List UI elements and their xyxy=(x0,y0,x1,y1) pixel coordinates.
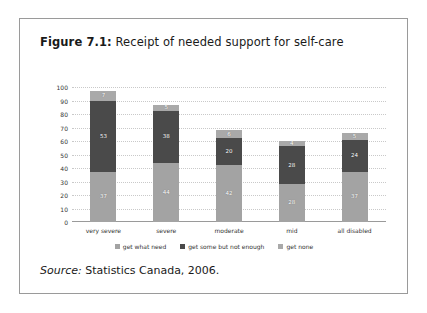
source-label: Source: xyxy=(40,264,82,277)
y-axis-tick-label: 10 xyxy=(60,205,68,212)
figure-caption-text: Receipt of needed support for self-care xyxy=(112,35,344,49)
gridline xyxy=(72,87,386,88)
bar-segment-value: 4 xyxy=(290,141,294,147)
y-axis-tick-label: 30 xyxy=(60,178,68,185)
x-axis-category-label: all disabled xyxy=(338,227,372,234)
bar-stack: 37537 xyxy=(90,91,116,222)
y-axis-tick-label: 50 xyxy=(60,151,68,158)
bar-segment-value: 37 xyxy=(100,194,107,200)
bar-segment: 37 xyxy=(342,172,368,222)
bar-segment: 28 xyxy=(279,146,305,184)
y-axis-tick-label: 40 xyxy=(60,165,68,172)
y-axis-tick-label: 0 xyxy=(64,219,68,226)
y-axis-tick-label: 20 xyxy=(60,192,68,199)
x-axis-category-label: mid xyxy=(286,227,297,234)
source-line: Source: Statistics Canada, 2006. xyxy=(40,264,219,277)
bar-segment-value: 42 xyxy=(226,191,233,197)
bar-segment: 5 xyxy=(342,133,368,140)
bar-segment: 28 xyxy=(279,184,305,222)
bar-segment-value: 28 xyxy=(288,163,295,169)
legend-swatch-icon xyxy=(180,244,185,249)
legend-label: get some but not enough xyxy=(188,243,264,250)
stacked-bar-chart: 0102030405060708090100375374438542206282… xyxy=(34,79,394,259)
bar-segment: 44 xyxy=(153,163,179,222)
bar-segment-value: 53 xyxy=(100,134,107,140)
bar-segment: 24 xyxy=(342,140,368,172)
bar-segment: 7 xyxy=(90,91,116,100)
bar-stack: 37245 xyxy=(342,133,368,222)
y-axis-tick-label: 90 xyxy=(60,97,68,104)
legend-label: get none xyxy=(286,243,313,250)
gridline xyxy=(72,114,386,115)
bar-stack: 44385 xyxy=(153,105,179,222)
bar-segment-value: 38 xyxy=(163,134,170,140)
gridline xyxy=(72,128,386,129)
bar-segment-value: 5 xyxy=(164,105,168,111)
x-axis-category-label: severe xyxy=(156,227,176,234)
bar-segment: 37 xyxy=(90,172,116,222)
x-axis-category-label: moderate xyxy=(214,227,243,234)
figure-panel: Figure 7.1: Receipt of needed support fo… xyxy=(19,18,408,294)
bar-segment-value: 24 xyxy=(351,153,358,159)
bar-segment-value: 37 xyxy=(351,194,358,200)
legend-item[interactable]: get what need xyxy=(115,243,166,250)
y-axis-tick-label: 70 xyxy=(60,124,68,131)
y-axis-tick-label: 100 xyxy=(57,84,68,91)
bar-segment-value: 5 xyxy=(353,134,357,140)
bar-segment-value: 44 xyxy=(163,190,170,196)
gridline xyxy=(72,101,386,102)
figure-caption: Figure 7.1: Receipt of needed support fo… xyxy=(40,35,344,49)
bar-segment-value: 28 xyxy=(288,200,295,206)
legend-swatch-icon xyxy=(115,244,120,249)
bar-segment-value: 6 xyxy=(227,132,231,138)
legend-item[interactable]: get none xyxy=(278,243,313,250)
legend-item[interactable]: get some but not enough xyxy=(180,243,264,250)
legend-swatch-icon xyxy=(278,244,283,249)
bar-segment: 4 xyxy=(279,141,305,146)
y-axis-tick-label: 80 xyxy=(60,111,68,118)
source-text: Statistics Canada, 2006. xyxy=(82,264,220,277)
bar-segment: 5 xyxy=(153,105,179,112)
bar-segment: 6 xyxy=(216,130,242,138)
bar-segment: 53 xyxy=(90,101,116,173)
bar-stack: 42206 xyxy=(216,130,242,222)
y-axis-tick-label: 60 xyxy=(60,138,68,145)
bar-segment-value: 20 xyxy=(226,149,233,155)
bar-segment: 38 xyxy=(153,111,179,162)
chart-legend: get what needget some but not enoughget … xyxy=(34,243,394,250)
bar-segment: 42 xyxy=(216,165,242,222)
plot-area: 0102030405060708090100375374438542206282… xyxy=(72,87,386,222)
figure-caption-label: Figure 7.1: xyxy=(40,35,112,49)
bar-segment-value: 7 xyxy=(102,93,106,99)
bar-stack: 28284 xyxy=(279,141,305,222)
x-axis-category-label: very severe xyxy=(86,227,121,234)
bar-segment: 20 xyxy=(216,138,242,165)
legend-label: get what need xyxy=(123,243,166,250)
